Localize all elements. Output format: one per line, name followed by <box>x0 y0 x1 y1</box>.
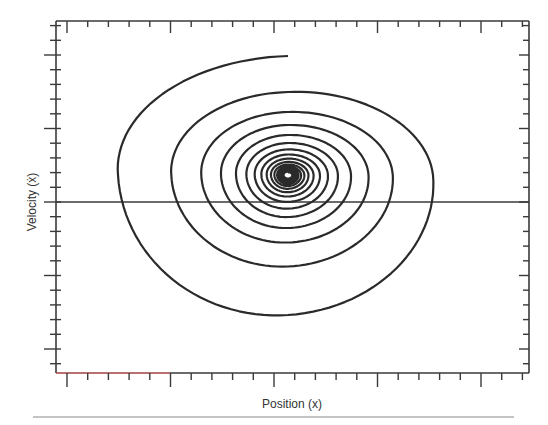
trajectory-spiral <box>118 56 434 315</box>
x-axis-label: Position (x) <box>262 397 322 411</box>
plot-axes <box>44 21 529 387</box>
y-axis-label: Velocity (ẋ) <box>25 173 39 232</box>
bottom-divider <box>33 416 514 418</box>
phase-plot <box>0 0 548 425</box>
